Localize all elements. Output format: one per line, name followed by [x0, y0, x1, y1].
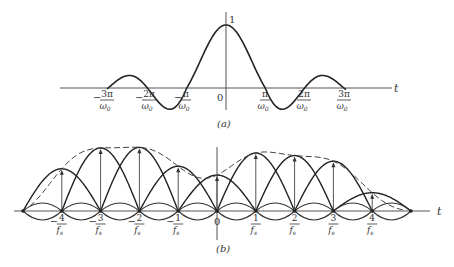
svg-text:fs: fs	[288, 225, 295, 236]
svg-text:ω0: ω0	[141, 101, 152, 112]
side-lobe-lower	[178, 211, 217, 220]
svg-text:1: 1	[175, 213, 181, 223]
sample-arrow-head	[215, 176, 219, 181]
side-lobe-upper	[295, 203, 334, 211]
svg-text:ω0: ω0	[296, 101, 307, 112]
figure-a-peak-label: 1	[229, 14, 235, 25]
svg-text:fs: fs	[327, 225, 334, 236]
figure-b-tick-3: 3fs	[327, 213, 338, 236]
figure-b-tick-2: 2fs	[288, 213, 299, 236]
svg-text:fs: fs	[172, 225, 179, 236]
sample-arrow-head	[99, 149, 103, 154]
sample-arrow-head	[293, 157, 297, 162]
svg-text:ω0: ω0	[99, 101, 110, 112]
figure-a-sinc-pulse: t 1 0 −3πω0−2πω0−πω0πω02πω03πω0 (a)	[60, 12, 399, 129]
figure-b-tick-neg-3: −3fs	[89, 213, 106, 236]
sample-node	[215, 209, 219, 213]
figure-a-tick-5: 3πω0	[336, 89, 351, 112]
svg-text:π: π	[262, 89, 268, 99]
figure-a-tick-neg-0: −3πω0	[93, 89, 114, 112]
figure-a-caption: (a)	[217, 118, 231, 129]
figure-b-tick-4: 4fs	[366, 213, 377, 236]
svg-text:ω0: ω0	[257, 101, 268, 112]
svg-text:fs: fs	[366, 225, 373, 236]
svg-text:fs: fs	[133, 225, 140, 236]
svg-text:4: 4	[369, 213, 375, 223]
side-lobe-upper	[256, 203, 295, 211]
figure-b-origin-label: 0	[214, 216, 220, 227]
svg-text:ω0: ω0	[336, 101, 347, 112]
figure-b-t-label: t	[437, 205, 442, 218]
sample-arrow-head	[176, 167, 180, 172]
figure-a-tick-neg-1: −2πω0	[135, 89, 156, 112]
svg-text:fs: fs	[56, 225, 63, 236]
svg-text:4: 4	[59, 213, 65, 223]
svg-text:fs: fs	[250, 225, 257, 236]
svg-text:2π: 2π	[143, 89, 155, 99]
sample-arrow-head	[331, 162, 335, 167]
figure-a-tick-neg-2: −πω0	[174, 89, 191, 112]
svg-text:3: 3	[331, 213, 337, 223]
sampling-theorem-figure: t 1 0 −3πω0−2πω0−πω0πω02πω03πω0 (a) t 0 …	[0, 0, 454, 267]
side-lobe-upper	[178, 203, 217, 211]
sample-node	[409, 209, 413, 213]
svg-text:2π: 2π	[298, 89, 310, 99]
figure-a-origin-label: 0	[217, 92, 223, 103]
figure-b-tick-neg-4: −4fs	[50, 213, 67, 236]
svg-text:3: 3	[98, 213, 104, 223]
sample-node	[21, 209, 25, 213]
side-lobe-upper	[101, 203, 140, 211]
sample-arrow-head	[370, 194, 374, 199]
figure-a-tick-4: 2πω0	[296, 89, 311, 112]
svg-text:2: 2	[292, 213, 298, 223]
figure-a-tick-3: πω0	[257, 89, 270, 112]
side-lobe-upper	[217, 203, 256, 211]
figure-b-sampled-reconstruction: t 0 −4fs−3fs−2fs−1fs1fs2fs3fs4fs (b)	[14, 147, 442, 254]
figure-b-tick-1: 1fs	[250, 213, 261, 236]
side-lobe-lower	[256, 211, 295, 220]
side-lobe-lower	[295, 211, 334, 220]
figure-a-t-label: t	[394, 82, 399, 95]
side-lobe-upper	[62, 203, 101, 211]
svg-text:3π: 3π	[101, 89, 113, 99]
figure-b-caption: (b)	[216, 243, 230, 254]
side-lobe-lower	[372, 211, 411, 220]
svg-text:2: 2	[137, 213, 143, 223]
svg-text:ω0: ω0	[178, 101, 189, 112]
svg-text:fs: fs	[94, 225, 101, 236]
figure-b-tick-neg-1: −1fs	[166, 213, 183, 236]
sample-arrow-head	[254, 154, 258, 159]
side-lobe-upper	[333, 203, 372, 211]
side-lobe-upper	[372, 203, 411, 211]
side-lobe-lower	[217, 211, 256, 220]
svg-text:1: 1	[253, 213, 259, 223]
figure-b-tick-neg-2: −2fs	[127, 213, 144, 236]
side-lobe-upper	[23, 203, 62, 211]
side-lobe-upper	[139, 203, 178, 211]
svg-text:3π: 3π	[338, 89, 350, 99]
sample-arrow-head	[137, 148, 141, 153]
side-lobe-lower	[333, 211, 372, 220]
svg-text:π: π	[183, 89, 189, 99]
